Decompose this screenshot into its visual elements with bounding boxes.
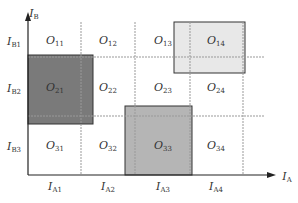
col-label-a3: IA3 xyxy=(156,180,170,194)
cell-o34: O34 xyxy=(207,139,225,153)
x-axis-label: IA xyxy=(282,170,291,184)
col-label-a2: IA2 xyxy=(101,180,115,194)
cell-o32: O32 xyxy=(99,139,117,153)
cell-o22: O22 xyxy=(99,81,117,95)
cell-o12: O12 xyxy=(99,34,117,48)
cell-o13: O13 xyxy=(154,34,172,48)
y-axis-label: IB xyxy=(29,7,39,21)
row-label-b3: IB3 xyxy=(7,140,21,154)
cell-o24: O24 xyxy=(207,81,225,95)
grid-diagram xyxy=(0,0,298,203)
col-label-a1: IA1 xyxy=(48,180,62,194)
cell-o31: O31 xyxy=(46,139,64,153)
cell-o33: O33 xyxy=(154,139,172,153)
row-label-b2: IB2 xyxy=(7,82,21,96)
cell-o14: O14 xyxy=(207,34,225,48)
x-axis-arrow-icon xyxy=(267,172,276,178)
cell-o11: O11 xyxy=(46,34,64,48)
cell-o21: O21 xyxy=(46,81,64,95)
col-label-a4: IA4 xyxy=(209,180,223,194)
cell-o23: O23 xyxy=(154,81,172,95)
row-label-b1: IB1 xyxy=(7,35,21,49)
